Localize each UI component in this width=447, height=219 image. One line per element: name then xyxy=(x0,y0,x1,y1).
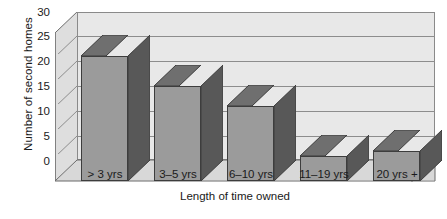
x-tick-label-4: 20 yrs + xyxy=(357,168,437,180)
bar-0-top-face xyxy=(81,35,128,56)
x-tick-label-3: 11–19 yrs xyxy=(284,168,364,180)
bar-2-top-face xyxy=(227,85,274,106)
y-tick-label-15: 15 xyxy=(37,81,50,92)
bar-0-front-face xyxy=(81,56,128,181)
y-tick-label-5: 5 xyxy=(44,131,50,142)
x-axis-tick-labels: > 3 yrs 3–5 yrs 6–10 yrs 11–19 yrs 20 yr… xyxy=(55,168,447,188)
y-tick-label-20: 20 xyxy=(37,56,50,67)
x-tick-label-0: > 3 yrs xyxy=(65,168,145,180)
bars-layer xyxy=(55,12,435,182)
y-tick-label-30: 30 xyxy=(37,7,50,18)
y-tick-label-0: 0 xyxy=(44,156,50,167)
x-tick-label-2: 6–10 yrs xyxy=(211,168,291,180)
bar-0-side-face xyxy=(128,35,150,181)
y-tick-label-25: 25 xyxy=(37,31,50,42)
bar-1-front-face xyxy=(154,86,201,181)
y-axis-tick-labels: 30 25 20 15 10 5 0 xyxy=(24,0,50,219)
x-tick-label-1: 3–5 yrs xyxy=(138,168,218,180)
y-tick-label-10: 10 xyxy=(37,106,50,117)
bar-3-top-face xyxy=(300,135,347,156)
bar-1-side-face xyxy=(201,65,223,181)
bar-1[interactable] xyxy=(154,86,201,181)
bar-2-side-face xyxy=(274,85,296,181)
x-axis-title: Length of time owned xyxy=(55,190,415,202)
bar-4-top-face xyxy=(373,130,420,151)
bar-chart: Number of second homes 30 25 20 15 10 5 … xyxy=(0,0,447,219)
bar-0[interactable] xyxy=(81,56,128,181)
bar-1-top-face xyxy=(154,65,201,86)
